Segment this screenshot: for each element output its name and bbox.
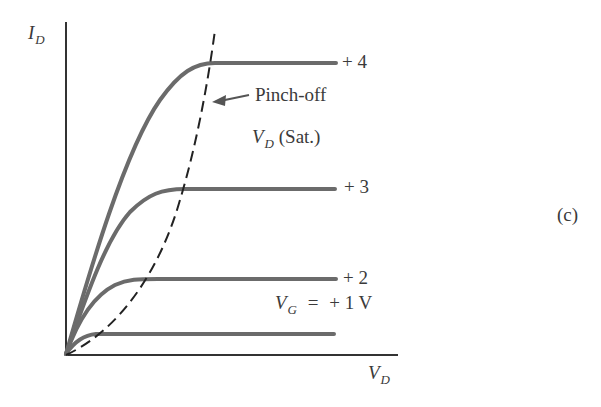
y-axis-label: ID (28, 22, 45, 44)
curve-vg-plus-3 (66, 189, 335, 354)
panel-label: (c) (557, 204, 578, 226)
curve-vg-plus-1 (66, 334, 334, 354)
vg-plus-1-label: VG = + 1 V (275, 292, 372, 314)
curve-label-plus-3: + 3 (344, 176, 369, 198)
pinch-off-label: Pinch-off (255, 84, 326, 106)
vd-sat-label: VD (Sat.) (252, 126, 320, 148)
x-axis-label: VD (368, 362, 390, 384)
curve-label-plus-4: + 4 (342, 51, 367, 73)
pinch-off-arrow-head (212, 95, 226, 106)
curve-label-plus-2: + 2 (343, 267, 368, 289)
fet-characteristic-diagram (0, 0, 601, 407)
